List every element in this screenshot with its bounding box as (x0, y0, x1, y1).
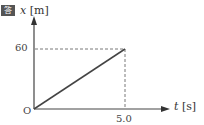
y-axis-arrow-icon (31, 16, 37, 25)
chart-plot (0, 0, 204, 125)
x-axis-arrow-icon (161, 106, 170, 112)
data-line (34, 49, 125, 109)
